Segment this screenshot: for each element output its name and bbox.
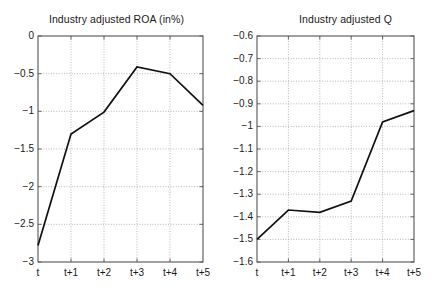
x-axis-tick-label: t+5 (407, 268, 421, 278)
x-axis-tick-label: t+2 (97, 268, 111, 278)
x-axis-tick-label: t+2 (313, 268, 327, 278)
x-axis-tick-label: t+4 (163, 268, 177, 278)
y-axis-tick-label: −0.8 (221, 76, 253, 86)
figure-canvas: Industry adjusted ROA (in%) 0−0.5−1−1.5−… (0, 0, 442, 291)
y-axis-tick-label: −2 (2, 182, 34, 192)
y-axis-tick-label: −1.5 (2, 144, 34, 154)
plot-area-q (221, 0, 442, 291)
data-series-line (38, 67, 203, 246)
y-axis-tick-label: −1.1 (221, 144, 253, 154)
y-axis-tick-label: −1.2 (221, 167, 253, 177)
y-axis-tick-label: −1.5 (221, 234, 253, 244)
y-axis-tick-label: −2.5 (2, 219, 34, 229)
y-axis-tick-label: −0.7 (221, 54, 253, 64)
x-axis-tick-label: t+3 (344, 268, 358, 278)
x-axis-tick-label: t+3 (130, 268, 144, 278)
plot-frame (38, 36, 203, 262)
data-series-line (257, 111, 414, 240)
x-axis-tick-label: t+1 (281, 268, 295, 278)
chart-industry-adjusted-q: Industry adjusted Q −0.6−0.7−0.8−0.9−1−1… (221, 0, 442, 291)
y-axis-tick-label: −1.3 (221, 189, 253, 199)
y-axis-tick-label: −0.9 (221, 99, 253, 109)
y-axis-tick-label: −0.6 (221, 31, 253, 41)
y-axis-tick-label: −1 (2, 106, 34, 116)
y-axis-tick-label: −1 (221, 121, 253, 131)
y-axis-tick-label: −1.4 (221, 212, 253, 222)
y-axis-tick-label: −3 (2, 257, 34, 267)
y-axis-tick-label: −1.6 (221, 257, 253, 267)
x-axis-tick-label: t (256, 268, 259, 278)
y-axis-tick-label: 0 (2, 31, 34, 41)
x-axis-tick-label: t (37, 268, 40, 278)
y-axis-tick-label: −0.5 (2, 69, 34, 79)
chart-industry-adjusted-roa: Industry adjusted ROA (in%) 0−0.5−1−1.5−… (0, 0, 221, 291)
x-axis-tick-label: t+1 (64, 268, 78, 278)
x-axis-tick-label: t+4 (376, 268, 390, 278)
x-axis-tick-label: t+5 (196, 268, 210, 278)
